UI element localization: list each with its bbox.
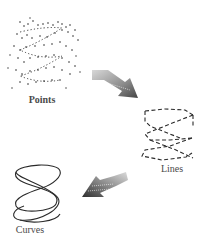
label-points: Points [22, 94, 62, 105]
label-curves: Curves [8, 224, 52, 235]
points-helix-hint [20, 28, 62, 82]
label-lines: Lines [152, 163, 192, 174]
arrow-points-to-lines [92, 70, 138, 98]
diagram-canvas: Points Lines Curves [0, 0, 201, 249]
lines-figure [142, 109, 193, 160]
arrow-lines-to-curves [82, 172, 128, 197]
diagram-graphics [0, 0, 201, 249]
curves-figure [14, 165, 61, 222]
